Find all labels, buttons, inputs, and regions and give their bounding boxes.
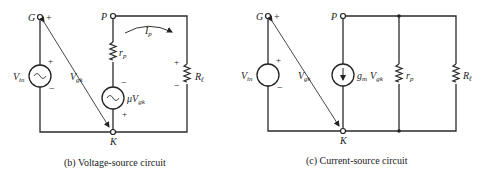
rl-resistor-icon — [453, 64, 459, 82]
caption-voltage-source: (b) Voltage-source circuit — [64, 157, 166, 169]
source-minus-sign: − — [121, 77, 127, 88]
plate-terminal — [111, 14, 116, 19]
grid-terminal — [38, 15, 43, 20]
rl-label: Rℓ — [462, 70, 472, 83]
vin-source-icon — [257, 64, 279, 86]
rl-minus-sign: − — [174, 80, 180, 91]
vin-plus-sign: + — [276, 55, 281, 65]
mu-vgk-label: μVgk — [126, 93, 146, 106]
ip-label: Ip — [144, 25, 152, 38]
vin-label: Vin — [13, 71, 25, 84]
rp-resistor-icon — [110, 42, 116, 60]
cathode-terminal — [341, 129, 346, 134]
node-label-p: P — [330, 11, 337, 22]
grid-terminal — [266, 14, 271, 19]
wire-cathode-to-rl — [345, 84, 456, 131]
rp-label: rp — [406, 70, 414, 83]
rp-resistor-icon — [396, 64, 402, 82]
rp-label: rp — [119, 47, 127, 60]
wire-cathode-to-rl — [115, 84, 187, 132]
rl-plus-sign: + — [174, 57, 179, 67]
vgk-label: Vgk — [70, 71, 84, 84]
caption-current-source: (c) Current-source circuit — [306, 155, 408, 167]
node-label-k: K — [109, 136, 118, 147]
vgk-arrow-icon — [272, 21, 339, 126]
rl-resistor-icon — [184, 64, 190, 82]
vin-minus-sign: − — [49, 83, 55, 94]
current-source-circuit: G + P K Vin + − Vgk gmVgk rp Rℓ (c) Curr… — [241, 11, 472, 167]
vgk-arrow-icon — [44, 22, 109, 127]
node-label-g: G — [256, 11, 263, 22]
vin-label: Vin — [241, 70, 253, 83]
wire-plate-to-rl — [345, 16, 456, 64]
junction-dot — [397, 14, 401, 18]
vin-plus-sign: + — [48, 56, 53, 66]
grid-plus-sign: + — [274, 11, 280, 22]
grid-plus-sign: + — [46, 12, 52, 23]
node-label-p: P — [100, 11, 107, 22]
node-label-k: K — [339, 135, 348, 146]
rl-label: Rℓ — [194, 71, 204, 84]
gm-vgk-label: gmVgk — [357, 70, 384, 83]
node-label-g: G — [28, 12, 35, 23]
plate-terminal — [341, 14, 346, 19]
voltage-source-circuit: G + P K Vin + − Vgk rp − μVgk + Ip + − R… — [13, 11, 204, 169]
junction-dot — [397, 129, 401, 133]
source-plus-sign: + — [122, 109, 127, 119]
cathode-terminal — [111, 130, 116, 135]
vin-minus-sign: − — [277, 82, 283, 93]
